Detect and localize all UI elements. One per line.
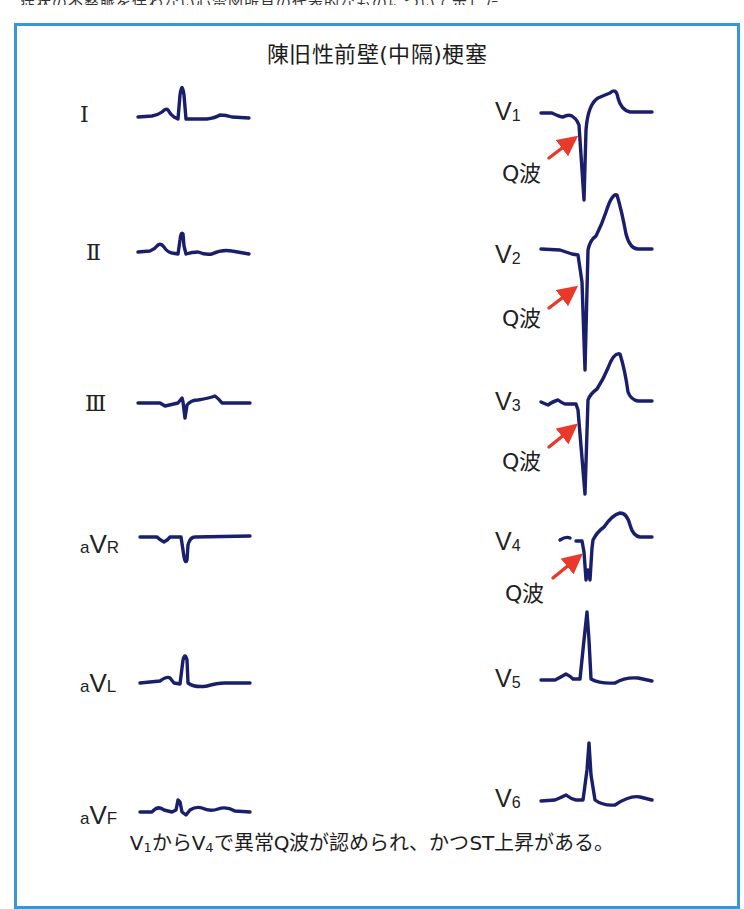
trace-V2 (541, 195, 652, 370)
trace-aVF (140, 800, 250, 815)
trace-I (138, 88, 249, 120)
trace-V3 (541, 354, 652, 494)
q-wave-arrow-V3 (549, 430, 570, 447)
q-wave-arrow-V1 (549, 142, 570, 158)
q-wave-arrow-V4 (553, 560, 575, 578)
trace-II (138, 233, 249, 254)
trace-aVR (140, 536, 250, 562)
q-wave-arrow-V2 (549, 292, 570, 308)
trace-V6 (541, 743, 652, 805)
trace-V1 (541, 91, 652, 200)
figure-caption: V1からV4で異常Q波が認められ、かつST上昇がある。 (0, 827, 744, 856)
trace-V4 (560, 513, 652, 580)
trace-V5 (541, 612, 652, 683)
trace-aVL (140, 656, 250, 687)
trace-III (138, 396, 250, 418)
